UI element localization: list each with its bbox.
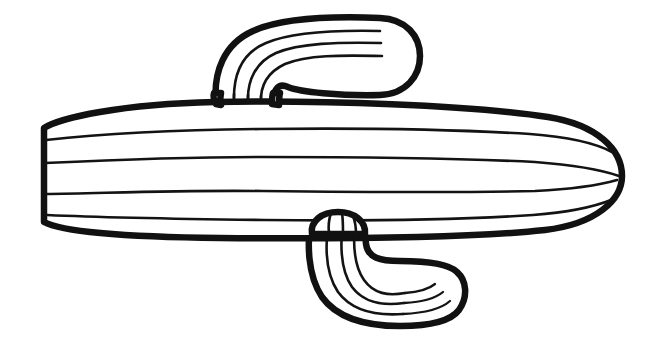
upper-arm-base-left-stub <box>213 93 221 105</box>
lower-arm-crown <box>312 212 365 234</box>
lower-arm-crown-ridge-2 <box>342 213 343 233</box>
illustration-canvas: Cactus Coloring Page Line Art <box>0 0 659 362</box>
cactus-line-art <box>0 0 659 362</box>
upper-arm-base-right-stub <box>272 93 280 105</box>
